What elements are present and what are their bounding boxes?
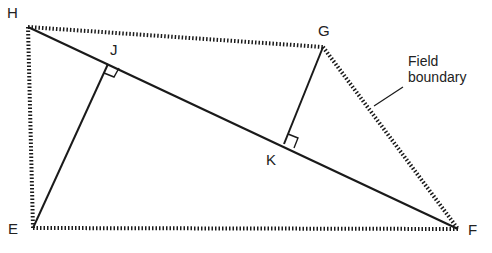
label-J: J xyxy=(110,41,118,58)
label-K: K xyxy=(266,151,276,168)
offset-EJ xyxy=(33,64,108,228)
right-angle-marker-K xyxy=(288,134,298,148)
annotation-leader-line xyxy=(374,87,403,106)
boundary-HG xyxy=(28,27,323,47)
label-G: G xyxy=(318,22,330,39)
annotation-line1: Field xyxy=(408,53,438,69)
boundary-FE xyxy=(33,228,458,229)
label-F: F xyxy=(468,221,477,238)
annotation-line2: boundary xyxy=(408,69,466,85)
field-diagram: H G J K E F Field boundary xyxy=(0,0,492,253)
boundary-EH xyxy=(28,27,33,228)
diagonal-HF xyxy=(28,27,458,229)
offset-GK xyxy=(284,47,323,144)
label-E: E xyxy=(8,220,18,237)
label-H: H xyxy=(7,4,18,21)
